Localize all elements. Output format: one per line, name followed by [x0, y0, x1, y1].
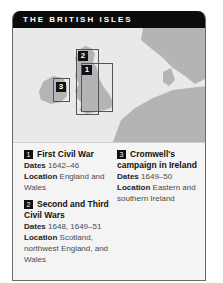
- dates-label: Dates: [24, 222, 46, 231]
- legend-title: First Civil War: [37, 149, 94, 159]
- location-label: Location: [24, 172, 57, 181]
- denmark-landmass: [163, 68, 175, 86]
- legend-column-left: 1First Civil War Dates 1642–46 Location …: [24, 149, 109, 271]
- map-marker-1: 1: [82, 65, 92, 75]
- legend-title: Cromwell's campaign in Ireland: [117, 149, 197, 170]
- legend-column-right: 3Cromwell's campaign in Ireland Dates 16…: [117, 149, 199, 210]
- legend-number-1: 1: [24, 150, 33, 159]
- dates-value: 1648, 1649–51: [48, 222, 101, 231]
- dates-label: Dates: [117, 172, 139, 181]
- dates-value: 1642–46: [48, 161, 79, 170]
- british-isles-panel: THE BRITISH ISLES 2 1 3 1First Civil War…: [12, 11, 206, 281]
- legend-item-3: 3Cromwell's campaign in Ireland Dates 16…: [117, 149, 199, 204]
- map-marker-3: 3: [56, 82, 66, 92]
- continental-europe-landmass: [113, 86, 205, 142]
- map-marker-2: 2: [78, 51, 88, 61]
- dates-label: Dates: [24, 161, 46, 170]
- map-area: 2 1 3: [13, 28, 205, 143]
- location-label: Location: [24, 233, 57, 242]
- dates-value: 1649–50: [141, 172, 172, 181]
- panel-title: THE BRITISH ISLES: [13, 11, 205, 28]
- legend-number-2: 2: [24, 200, 33, 209]
- legend-title: Second and Third Civil Wars: [24, 199, 109, 220]
- legend-number-3: 3: [117, 150, 126, 159]
- legend-item-1: 1First Civil War Dates 1642–46 Location …: [24, 149, 109, 193]
- location-label: Location: [117, 183, 150, 192]
- legend-item-2: 2Second and Third Civil Wars Dates 1648,…: [24, 199, 109, 265]
